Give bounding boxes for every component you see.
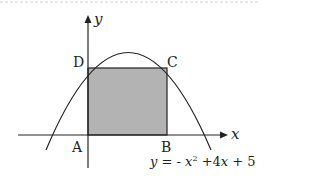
point-b-label: B: [161, 140, 171, 154]
x-axis-arrow-icon: [220, 132, 228, 139]
equation-constant: + 5: [228, 154, 255, 169]
point-d-label: D: [73, 55, 84, 69]
x-axis-label: x: [231, 127, 239, 142]
equation-lhs: = -: [157, 154, 181, 169]
y-axis-arrow-icon: [85, 15, 92, 23]
y-axis-label: y: [94, 12, 102, 27]
shaded-rectangle-abcd: [88, 68, 167, 135]
point-a-label: A: [72, 140, 82, 154]
point-c-label: C: [167, 55, 178, 69]
parabola-equation: y = - x2 +4x + 5: [150, 154, 256, 169]
equation-rest: +4: [198, 154, 221, 169]
